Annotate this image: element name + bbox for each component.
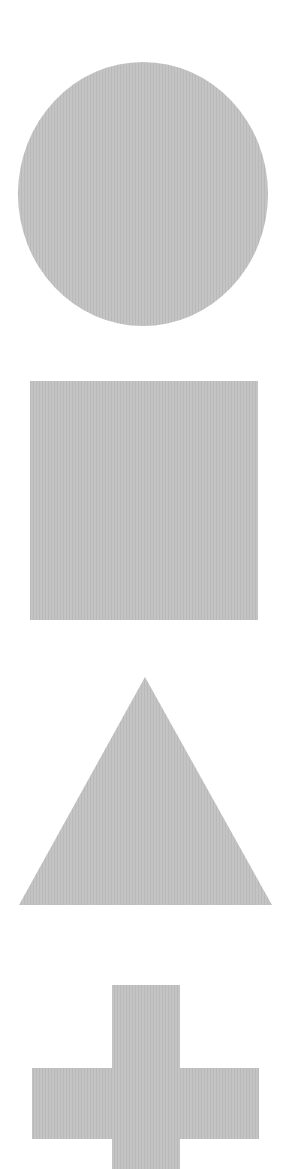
shapes-svg xyxy=(0,0,305,1169)
square-shape xyxy=(30,381,258,620)
shape-canvas xyxy=(0,0,305,1169)
circle-shape xyxy=(18,62,268,326)
cross-shape xyxy=(32,985,259,1169)
triangle-shape xyxy=(19,677,272,905)
